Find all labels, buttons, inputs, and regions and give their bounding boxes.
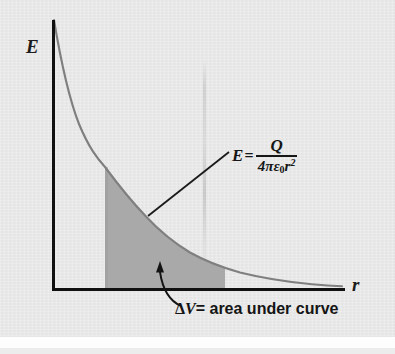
field-equation-callout: E = Q 4πε0r2 xyxy=(232,138,297,175)
equation-equals-sign: = xyxy=(245,147,254,165)
caption-text: = area under curve xyxy=(196,300,339,317)
area-caption: ΔV= area under curve xyxy=(175,300,338,318)
delta-symbol: Δ xyxy=(175,300,185,317)
equation-denominator: 4πε0r2 xyxy=(256,157,298,175)
electric-field-figure: E r E = Q 4πε0r2 ΔV= area under curve xyxy=(0,0,395,354)
equation-lhs: E xyxy=(232,146,244,166)
shade-edge-left xyxy=(105,167,108,290)
y-axis-label: E xyxy=(26,36,39,58)
field-curve xyxy=(54,20,342,286)
equation-numerator: Q xyxy=(265,137,287,155)
radius-exponent: 2 xyxy=(290,157,295,168)
scan-seam-band xyxy=(0,337,395,348)
equation-leader-line xyxy=(148,152,229,216)
potential-variable: V xyxy=(185,300,196,317)
equation-fraction: Q 4πε0r2 xyxy=(256,137,298,175)
x-axis-label: r xyxy=(352,274,359,296)
scan-bottom-strip xyxy=(0,348,395,354)
shaded-area-under-curve xyxy=(105,167,225,290)
